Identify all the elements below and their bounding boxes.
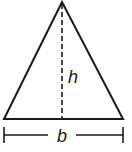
triangle-shape [4,2,123,119]
height-label: h [68,67,78,87]
triangle-diagram: h b [0,0,132,152]
base-label: b [57,126,67,146]
